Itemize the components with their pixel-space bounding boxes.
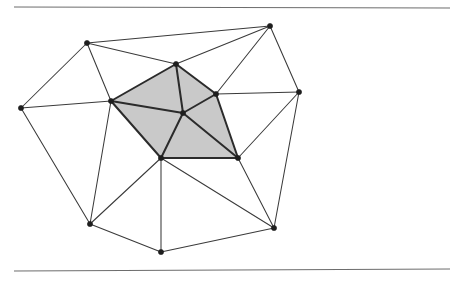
vertex-o-right: outer vertex right xyxy=(296,89,301,94)
vertex-o-left: outer vertex left xyxy=(18,105,23,110)
triangulation-figure: central hub vertexstar vertex leftstar v… xyxy=(0,0,461,286)
vertex-p-lowright: star vertex lower right xyxy=(235,155,240,160)
vertex-p-right: star vertex right xyxy=(213,91,218,96)
vertex-o-botmid: outer vertex bottom mid xyxy=(158,249,163,254)
vertex-p-lowleft: star vertex lower left xyxy=(158,155,163,160)
figure-container: central hub vertexstar vertex leftstar v… xyxy=(0,0,461,286)
vertex-p-top: star vertex top xyxy=(173,61,178,66)
vertex-hub: central hub vertex xyxy=(180,110,185,115)
vertex-p-left: star vertex left xyxy=(108,98,113,103)
vertex-o-topright: outer vertex top right xyxy=(267,23,272,28)
vertex-o-botright: outer vertex bottom right xyxy=(271,225,276,230)
vertex-o-botleft: outer vertex bottom left xyxy=(87,221,92,226)
vertex-o-topleft: outer vertex top left xyxy=(84,40,89,45)
